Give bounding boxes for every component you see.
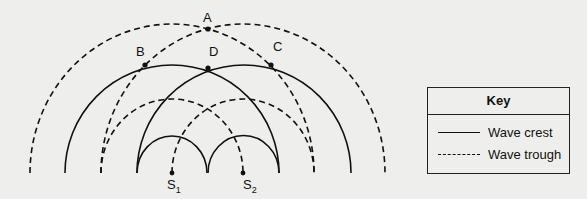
crest-s2-large [137,65,351,173]
source-s1-label: S1 [167,178,181,195]
key-item-label: Wave trough [488,147,561,162]
key-item-crest: Wave crest [428,121,569,143]
point-d-dot [205,65,210,70]
crest-s1-large [65,65,279,173]
key-item-label: Wave crest [488,125,553,140]
source-s1-dot [170,171,175,176]
point-a-dot [205,26,210,31]
key-title: Key [428,88,569,115]
point-b-label: B [136,45,145,58]
source-s2-dot [241,171,246,176]
point-c-label: C [273,40,282,53]
solid-line-icon [438,132,480,133]
dashed-line-icon [438,154,480,155]
point-d-label: D [209,45,218,58]
source-s2-label: S2 [243,178,257,195]
point-b-dot [142,62,147,67]
key-legend: Key Wave crest Wave trough [427,87,570,174]
key-item-trough: Wave trough [428,143,569,165]
point-a-label: A [203,11,212,24]
point-c-dot [268,62,273,67]
